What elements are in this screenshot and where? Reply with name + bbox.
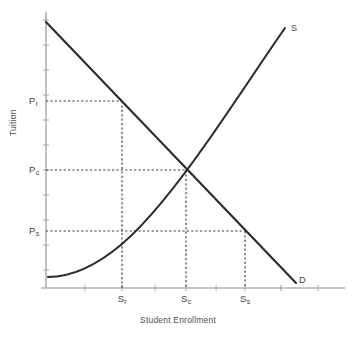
qty-s-base: S [240, 293, 246, 304]
y-tick-label-price-s: Ps [29, 226, 39, 236]
chart-canvas [0, 0, 353, 337]
supply-curve [48, 28, 285, 277]
x-tick-label-qty-s: Ss [240, 294, 250, 304]
price-s-subscript: s [36, 230, 40, 237]
qty-s-subscript: s [247, 298, 251, 305]
x-tick-label-qty-r: Sr [118, 294, 127, 304]
axes-group [41, 12, 345, 288]
demand-curve [46, 22, 296, 283]
supply-curve-label: S [291, 24, 297, 33]
price-r-subscript: r [36, 100, 38, 107]
qty-r-subscript: r [124, 298, 126, 305]
x-axis-title: Student Enrollment [140, 316, 216, 325]
demand-curve-label: D [299, 276, 306, 285]
price-s-base: P [29, 225, 35, 236]
y-tick-label-price-c: Pc [29, 165, 39, 175]
price-c-base: P [29, 164, 35, 175]
guide-lines-ps [46, 231, 245, 288]
x-tick-label-qty-c: Sc [181, 294, 191, 304]
guide-lines-pr [46, 101, 122, 288]
qty-r-base: S [118, 293, 124, 304]
price-r-base: P [29, 95, 35, 106]
y-tick-label-price-r: Pr [29, 96, 38, 106]
qty-c-subscript: c [188, 298, 192, 305]
price-c-subscript: c [36, 169, 40, 176]
supply-demand-chart: Tuition Student Enrollment Pr Pc Ps Sr S… [0, 0, 353, 337]
y-axis-title: Tuition [9, 109, 18, 136]
guide-lines-pc [46, 170, 186, 288]
qty-c-base: S [181, 293, 187, 304]
